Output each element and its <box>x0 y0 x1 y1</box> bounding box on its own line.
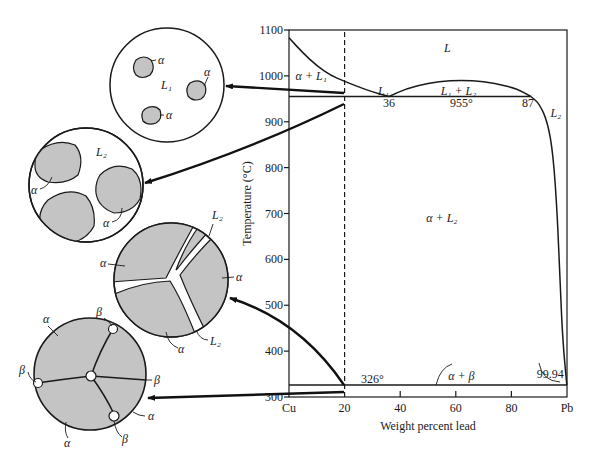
alpha-label: α <box>178 342 185 356</box>
y-axis-ticks: 11001000900800700600500400300 <box>259 23 289 404</box>
beta-label: β <box>95 305 102 319</box>
annotation-label: α + L₂ <box>426 211 457 225</box>
alpha-label: α <box>236 270 243 284</box>
microstructure-2: L₂ α α <box>29 128 143 244</box>
leader-line <box>209 224 213 236</box>
liquid-l2-label: L₂ <box>209 334 221 348</box>
alpha-label: α <box>64 436 71 450</box>
x-tick-label: Cu <box>282 401 296 415</box>
y-tick-label: 1100 <box>259 23 283 37</box>
annotation-label: 955° <box>450 96 473 110</box>
liquidus-cu-side-line <box>289 38 389 97</box>
arrow-to-microstructure-3 <box>230 298 344 385</box>
y-tick-label: 1000 <box>259 69 283 83</box>
alpha-label: α <box>148 409 155 423</box>
y-tick-label: 700 <box>265 207 283 221</box>
beta-particle <box>109 325 118 334</box>
liquid-l2-label: L₂ <box>95 145 107 159</box>
x-axis-ticks: Cu20406080Pb <box>282 391 573 415</box>
alpha-label: α <box>43 312 50 326</box>
alpha-label: α <box>100 256 107 270</box>
microstructure-1: α α α L₁ <box>110 28 224 142</box>
annotation-label: α + β <box>448 369 474 383</box>
alpha-grain <box>96 166 141 213</box>
y-tick-label: 400 <box>265 344 283 358</box>
y-axis-label: Temperature (°C) <box>240 161 254 245</box>
annotation-label: L₂ <box>549 106 561 120</box>
beta-label: β <box>121 432 128 446</box>
alpha-grain <box>187 81 206 100</box>
x-axis-label: Weight percent lead <box>380 419 476 433</box>
alpha-label: α <box>158 53 165 67</box>
alpha-label: α <box>166 108 173 122</box>
y-tick-label: 800 <box>265 161 283 175</box>
arrow-to-microstructure-1 <box>226 86 344 93</box>
annotation-label: 87 <box>522 96 534 110</box>
alpha-label: α <box>31 183 38 197</box>
annotation-label: 326° <box>361 372 384 386</box>
y-tick-label: 900 <box>265 115 283 129</box>
beta-particle <box>86 371 96 381</box>
beta-label: β <box>18 363 25 377</box>
alpha-grain <box>142 107 161 124</box>
x-tick-label: 20 <box>339 401 351 415</box>
annotation-label: 36 <box>383 96 395 110</box>
liquid-l2-label: L₂ <box>211 208 223 222</box>
phase-diagram-plot: 11001000900800700600500400300 Cu20406080… <box>240 23 573 433</box>
liquid-l1-label: L₁ <box>160 78 172 92</box>
x-tick-label: 60 <box>450 401 462 415</box>
y-tick-label: 500 <box>265 298 283 312</box>
leader-line <box>133 412 145 416</box>
alpha-grain <box>40 192 95 244</box>
x-tick-label: 80 <box>505 401 517 415</box>
beta-particle <box>109 411 119 421</box>
alpha-label: α <box>103 216 110 230</box>
liquidus-pb-side-line <box>531 97 567 386</box>
beta-particle <box>34 379 43 388</box>
annotation-label: L <box>443 41 451 55</box>
y-tick-label: 600 <box>265 252 283 266</box>
alpha-grain <box>134 57 154 78</box>
x-tick-label: 40 <box>394 401 406 415</box>
leader-line <box>196 330 208 340</box>
x-tick-label: Pb <box>561 401 574 415</box>
beta-label: β <box>153 373 160 387</box>
y-tick-label: 300 <box>265 390 283 404</box>
annotation-label: α + L₁ <box>296 69 327 83</box>
cu-pb-phase-diagram: 11001000900800700600500400300 Cu20406080… <box>0 0 598 466</box>
alpha-label: α <box>204 65 211 79</box>
